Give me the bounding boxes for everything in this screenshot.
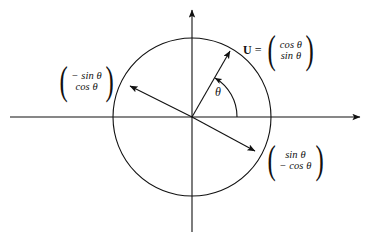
- open-paren-icon: (: [60, 61, 68, 101]
- u-component-top: cos θ: [280, 39, 302, 51]
- perp-cw-component-bottom: − cos θ: [279, 160, 311, 172]
- perp-ccw-column-vector: − sin θ cos θ: [69, 70, 103, 93]
- close-paren-icon: ): [105, 61, 113, 101]
- open-paren-icon: (: [268, 30, 276, 70]
- u-component-bottom: sin θ: [281, 50, 302, 62]
- angle-theta-label: θ: [215, 85, 221, 100]
- perpendicular-cw-vector: [192, 117, 255, 151]
- perpendicular-ccw-vector: [130, 86, 192, 117]
- perpendicular-cw-label: ( sin θ − cos θ ): [265, 140, 326, 180]
- u-symbol: U: [243, 44, 252, 56]
- u-vector-label: U = ( cos θ sin θ ): [243, 30, 316, 70]
- perp-cw-column-vector: sin θ − cos θ: [277, 149, 313, 172]
- figure-canvas: [0, 0, 377, 243]
- perp-cw-component-top: sin θ: [285, 149, 306, 161]
- perpendicular-ccw-label: ( − sin θ cos θ ): [57, 61, 116, 101]
- unit-circle-figure: U = ( cos θ sin θ ) ( − sin θ cos θ ) ( …: [0, 0, 377, 243]
- u-vector: [192, 51, 230, 117]
- close-paren-icon: ): [306, 30, 314, 70]
- perp-ccw-component-top: − sin θ: [71, 70, 101, 82]
- close-paren-icon: ): [315, 140, 323, 180]
- equals-sign: =: [255, 44, 262, 56]
- u-column-vector: cos θ sin θ: [278, 39, 304, 62]
- open-paren-icon: (: [268, 140, 276, 180]
- perp-ccw-component-bottom: cos θ: [75, 81, 97, 93]
